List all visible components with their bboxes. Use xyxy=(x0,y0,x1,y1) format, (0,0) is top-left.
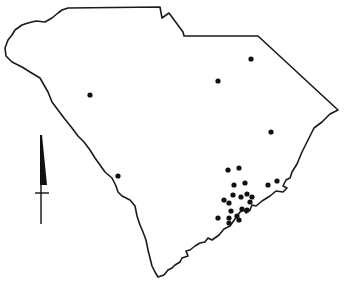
occurrence-point xyxy=(249,194,254,199)
occurrence-point xyxy=(226,220,231,225)
occurrence-point xyxy=(274,178,279,183)
occurrence-point xyxy=(248,56,253,61)
occurrence-point xyxy=(244,207,249,212)
occurrence-point xyxy=(228,208,233,213)
occurrence-point xyxy=(247,199,252,204)
occurrence-point xyxy=(115,173,120,178)
occurrence-point xyxy=(236,165,241,170)
occurrence-point xyxy=(226,200,231,205)
occurrence-point xyxy=(238,194,243,199)
north-arrow-icon xyxy=(35,135,49,224)
state-map xyxy=(0,0,349,285)
occurrence-point xyxy=(265,182,270,187)
occurrence-point xyxy=(242,180,247,185)
occurrence-point xyxy=(226,215,231,220)
occurrence-point xyxy=(268,129,273,134)
occurrence-point xyxy=(225,167,230,172)
state-outline xyxy=(5,7,338,277)
occurrence-points xyxy=(87,56,279,225)
occurrence-point xyxy=(236,217,241,222)
occurrence-point xyxy=(231,182,236,187)
occurrence-point xyxy=(87,92,92,97)
occurrence-point xyxy=(221,197,226,202)
occurrence-point xyxy=(244,191,249,196)
occurrence-point xyxy=(230,192,235,197)
occurrence-point xyxy=(239,206,244,211)
occurrence-point xyxy=(215,215,220,220)
occurrence-point xyxy=(215,78,220,83)
